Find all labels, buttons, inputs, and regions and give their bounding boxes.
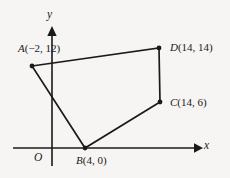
vertex-label-d: D(14, 14) <box>170 42 213 53</box>
vertex-point-b <box>83 146 88 151</box>
y-axis-arrowhead <box>47 26 56 36</box>
x-axis-label: x <box>204 140 209 152</box>
vertex-label-c: C(14, 6) <box>170 97 207 108</box>
vertex-label-b: B(4, 0) <box>76 155 107 166</box>
vertex-label-a: A(−2, 12) <box>18 43 60 54</box>
vertex-point-d <box>157 46 162 51</box>
vertex-point-a <box>30 64 35 69</box>
y-axis-label: y <box>47 9 52 21</box>
x-axis-arrowhead <box>194 143 203 153</box>
origin-label: O <box>34 152 42 164</box>
vertex-point-c <box>158 100 163 105</box>
coordinate-geometry-figure: A(−2, 12) B(4, 0) C(14, 6) D(14, 14) O x… <box>0 0 230 178</box>
